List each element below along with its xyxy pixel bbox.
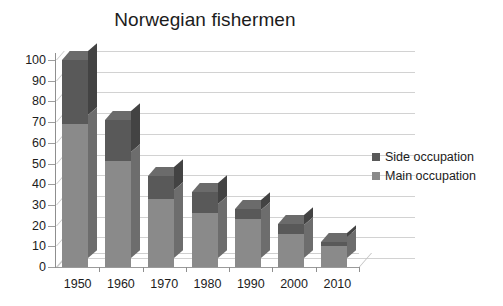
y-axis-tick-labels: 1009080706050403020100 (16, 0, 46, 306)
x-axis-tick-mark (229, 267, 230, 272)
y-axis-tick-label: 20 (18, 221, 46, 231)
legend-item[interactable]: Main occupation (372, 166, 476, 185)
bar-column[interactable] (105, 120, 131, 267)
gridline (69, 92, 415, 93)
chart-container: Norwegian fishermen 10090807060504030201… (0, 0, 503, 306)
y-axis-tick-label: 70 (18, 117, 46, 127)
bar-side-face-main-occupation (131, 145, 140, 258)
bar-side-face-main-occupation (261, 203, 270, 258)
legend-swatch-icon (372, 172, 380, 180)
y-axis-tick-mark (48, 205, 55, 206)
bar-segment-side-occupation[interactable] (105, 120, 131, 161)
bar-side-face-main-occupation (304, 217, 313, 258)
x-axis-tick-mark (99, 267, 100, 272)
y-axis-tick-mark (48, 122, 55, 123)
legend-item[interactable]: Side occupation (372, 147, 476, 166)
y-axis-tick-label: 80 (18, 96, 46, 106)
x-axis-tick-mark (186, 267, 187, 272)
y-axis-tick-mark (48, 184, 55, 185)
y-axis-tick-label: 30 (18, 200, 46, 210)
bar-segment-side-occupation[interactable] (192, 192, 218, 213)
legend-item-label: Side occupation (385, 150, 474, 164)
y-axis-tick-label: 50 (18, 159, 46, 169)
x-axis-line (56, 267, 359, 268)
bar-segment-main-occupation[interactable] (192, 213, 218, 267)
bar-side-face-main-occupation (174, 182, 183, 258)
x-axis-tick-mark (272, 267, 273, 272)
floor-right-edge (358, 253, 372, 268)
y-axis-tick-label: 60 (18, 138, 46, 148)
x-axis-tick-mark (143, 267, 144, 272)
y-axis-tick-mark (48, 226, 55, 227)
gridline (69, 51, 415, 52)
x-axis-tick-label: 1990 (227, 277, 275, 291)
y-axis-tick-label: 100 (18, 55, 46, 65)
bar-segment-main-occupation[interactable] (105, 161, 131, 267)
x-axis-tick-mark (316, 267, 317, 272)
y-axis-tick-mark (48, 60, 55, 61)
bar-side-face-side-occupation (88, 43, 97, 115)
gridline (69, 72, 415, 73)
y-axis-tick-label: 0 (18, 262, 46, 272)
y-axis-tick-label: 40 (18, 179, 46, 189)
bar-column[interactable] (192, 192, 218, 267)
bar-segment-main-occupation[interactable] (148, 199, 174, 267)
y-axis-tick-label: 90 (18, 76, 46, 86)
bar-segment-main-occupation[interactable] (321, 246, 347, 267)
y-axis-tick-label: 10 (18, 241, 46, 251)
x-axis-tick-label: 1970 (140, 277, 188, 291)
y-axis-tick-mark (48, 101, 55, 102)
x-axis-tick-label: 2000 (270, 277, 318, 291)
legend-item-label: Main occupation (385, 169, 476, 183)
bar-segment-main-occupation[interactable] (278, 234, 304, 267)
bar-column[interactable] (321, 242, 347, 267)
x-axis-tick-label: 1960 (97, 277, 145, 291)
x-axis-tick-label: 2010 (313, 277, 361, 291)
y-axis-tick-mark (48, 143, 55, 144)
bar-side-face-main-occupation (88, 107, 97, 258)
bar-segment-main-occupation[interactable] (235, 219, 261, 267)
y-axis-tick-mark (48, 164, 55, 165)
x-axis-tick-mark (359, 267, 360, 272)
bar-segment-side-occupation[interactable] (62, 60, 88, 124)
legend-swatch-icon (372, 153, 380, 161)
x-axis-tick-label: 1950 (54, 277, 102, 291)
y-axis-tick-mark (48, 246, 55, 247)
bar-segment-main-occupation[interactable] (62, 124, 88, 267)
y-axis-tick-mark (48, 81, 55, 82)
chart-legend: Side occupationMain occupation (372, 147, 476, 185)
bar-side-face-main-occupation (218, 196, 227, 258)
y-axis-tick-mark (48, 267, 55, 268)
x-axis-tick-label: 1980 (184, 277, 232, 291)
bar-column[interactable] (235, 209, 261, 267)
bar-segment-side-occupation[interactable] (278, 224, 304, 234)
y-axis-line (55, 53, 56, 268)
bar-segment-side-occupation[interactable] (235, 209, 261, 219)
bar-segment-side-occupation[interactable] (148, 176, 174, 199)
bar-column[interactable] (62, 60, 88, 267)
bar-column[interactable] (148, 176, 174, 267)
bar-column[interactable] (278, 224, 304, 267)
